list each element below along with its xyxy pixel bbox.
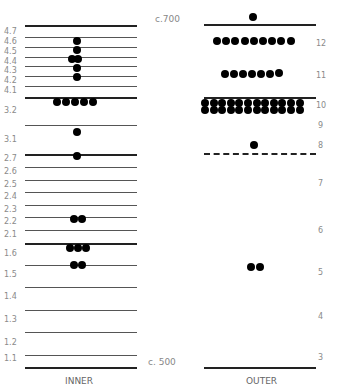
outer-level-label: 3 [318, 353, 323, 362]
inner-level-label: 1.5 [4, 270, 17, 279]
outer-level-label: 11 [316, 71, 326, 80]
inner-level-label: 4.1 [4, 86, 17, 95]
inner-level-divider [25, 230, 137, 231]
inner-level-label: 1.4 [4, 292, 17, 301]
outer-find-dot [241, 37, 249, 45]
inner-find-dot [73, 128, 81, 136]
inner-level-label: 2.7 [4, 154, 17, 163]
outer-find-dot [287, 37, 295, 45]
outer-find-dot [244, 106, 252, 114]
inner-level-divider [25, 37, 137, 38]
outer-level-label: 7 [318, 179, 323, 188]
inner-level-divider [25, 25, 137, 27]
inner-level-label: 4.3 [4, 66, 17, 75]
inner-level-label: 1.6 [4, 249, 17, 258]
date-top-label: c.700 [155, 14, 180, 24]
inner-find-dot [70, 261, 78, 269]
outer-dashed-divider [204, 153, 316, 155]
inner-level-divider [25, 355, 137, 356]
outer-find-dot [235, 106, 243, 114]
inner-find-dot [89, 98, 97, 106]
inner-level-divider [25, 47, 137, 48]
outer-find-dot [261, 106, 269, 114]
outer-find-dot [277, 37, 285, 45]
inner-find-dot [74, 55, 82, 63]
inner-level-divider [25, 125, 137, 126]
inner-find-dot [53, 98, 61, 106]
outer-find-dot [278, 106, 286, 114]
inner-level-divider [25, 332, 137, 333]
inner-level-label: 4.5 [4, 47, 17, 56]
inner-find-dot [73, 152, 81, 160]
inner-find-dot [73, 46, 81, 54]
outer-find-dot [227, 106, 235, 114]
outer-level-label: 5 [318, 268, 323, 277]
outer-find-dot [253, 106, 261, 114]
inner-level-divider [25, 86, 137, 87]
inner-level-divider [25, 154, 137, 156]
inner-level-divider [25, 192, 137, 193]
inner-find-dot [78, 261, 86, 269]
outer-find-dot [256, 263, 264, 271]
outer-find-dot [221, 70, 229, 78]
inner-level-label: 2.4 [4, 192, 17, 201]
inner-level-label: 2.2 [4, 217, 17, 226]
inner-find-dot [66, 244, 74, 252]
outer-find-dot [213, 37, 221, 45]
inner-find-dot [73, 37, 81, 45]
inner-level-label: 2.5 [4, 180, 17, 189]
outer-title: OUTER [246, 376, 277, 386]
inner-find-dot [62, 98, 70, 106]
outer-find-dot [201, 106, 209, 114]
inner-level-label: 2.3 [4, 205, 17, 214]
inner-level-divider [25, 180, 137, 181]
outer-find-dot [248, 70, 256, 78]
inner-level-divider [25, 66, 137, 67]
inner-level-label: 4.6 [4, 37, 17, 46]
outer-find-dot [249, 13, 257, 21]
inner-level-divider [25, 287, 137, 288]
inner-find-dot [73, 64, 81, 72]
inner-find-dot [71, 98, 79, 106]
outer-find-dot [239, 70, 247, 78]
outer-level-label: 9 [318, 121, 323, 130]
outer-find-dot [247, 263, 255, 271]
outer-find-dot [287, 106, 295, 114]
outer-find-dot [270, 106, 278, 114]
outer-find-dot [250, 141, 258, 149]
inner-level-divider [25, 367, 137, 369]
outer-find-dot [259, 37, 267, 45]
inner-level-divider [25, 76, 137, 77]
outer-level-label: 12 [316, 39, 326, 48]
outer-level-label: 8 [318, 141, 323, 150]
inner-level-divider [25, 310, 137, 311]
outer-level-label: 10 [316, 101, 326, 110]
inner-find-dot [73, 73, 81, 81]
outer-find-dot [296, 106, 304, 114]
inner-level-label: 4.4 [4, 57, 17, 66]
inner-title: INNER [65, 376, 93, 386]
inner-level-divider [25, 167, 137, 168]
inner-find-dot [70, 215, 78, 223]
outer-top-boundary [204, 24, 316, 26]
inner-level-label: 4.7 [4, 27, 17, 36]
inner-level-label: 1.3 [4, 315, 17, 324]
outer-find-dot [257, 70, 265, 78]
inner-level-label: 2.6 [4, 167, 17, 176]
outer-find-dot [210, 106, 218, 114]
outer-bottom-boundary [204, 367, 316, 369]
inner-level-label: 3.2 [4, 106, 17, 115]
outer-find-dot [250, 37, 258, 45]
inner-find-dot [80, 98, 88, 106]
outer-level-label: 4 [318, 312, 323, 321]
outer-find-dot [275, 69, 283, 77]
outer-find-dot [268, 37, 276, 45]
inner-find-dot [74, 244, 82, 252]
inner-level-divider [25, 205, 137, 206]
outer-level-label: 6 [318, 226, 323, 235]
inner-level-label: 4.2 [4, 76, 17, 85]
outer-find-dot [222, 37, 230, 45]
inner-level-label: 1.2 [4, 338, 17, 347]
inner-level-label: 2.1 [4, 230, 17, 239]
date-bottom-label: c. 500 [148, 357, 176, 367]
